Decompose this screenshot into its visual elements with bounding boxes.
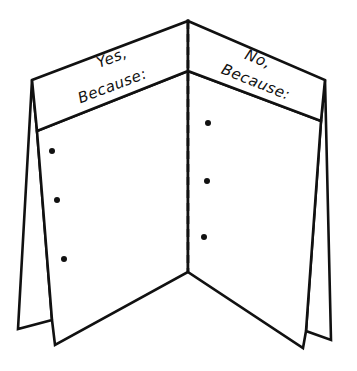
right-bullet-1 <box>205 120 211 126</box>
left-bullet-3 <box>61 256 67 262</box>
left-bullet-1 <box>49 148 55 154</box>
foldable-organizer-diagram: Yes, Because: No, Because: <box>0 0 357 371</box>
left-bullet-2 <box>54 197 60 203</box>
right-bullet-2 <box>204 178 210 184</box>
right-bullet-3 <box>201 234 207 240</box>
